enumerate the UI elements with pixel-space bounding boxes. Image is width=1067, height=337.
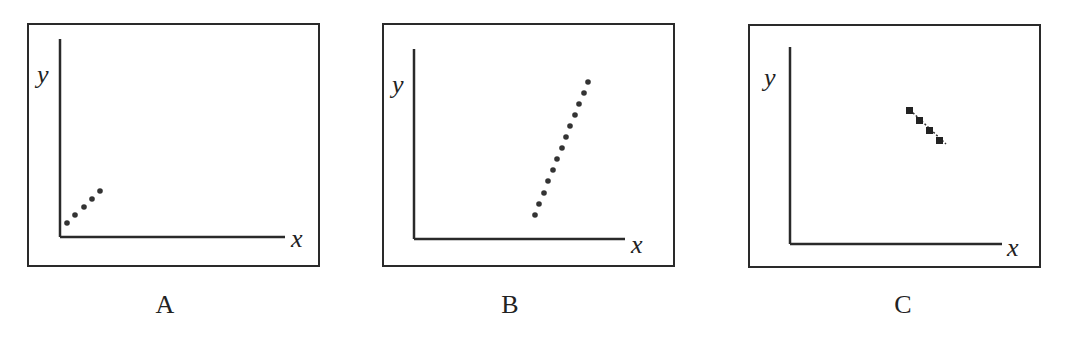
panel-a: y x <box>27 23 320 267</box>
caption-b: B <box>490 290 530 320</box>
y-axis-label: y <box>34 60 49 89</box>
x-axis-label: x <box>290 224 303 253</box>
scatter-plot-b: y x <box>384 25 677 269</box>
y-axis-label: y <box>389 70 404 99</box>
y-axis-label: y <box>761 63 776 92</box>
x-axis-label: x <box>1006 233 1019 262</box>
scatter-plot-a: y x <box>29 25 322 269</box>
panel-b: y x <box>382 23 675 267</box>
caption-c: C <box>883 290 923 320</box>
panel-c: y x <box>748 24 1041 268</box>
data-points <box>906 107 943 144</box>
caption-a: A <box>145 290 185 320</box>
data-points <box>64 188 103 226</box>
x-axis-label: x <box>630 230 643 259</box>
scatter-plot-c: y x <box>750 26 1043 270</box>
data-points <box>532 79 591 218</box>
